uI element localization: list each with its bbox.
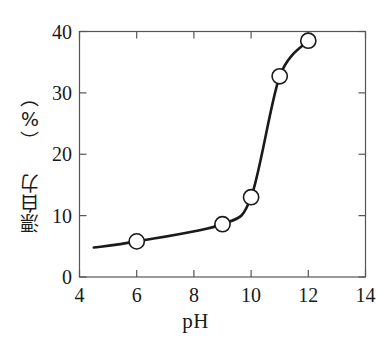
data-point-marker xyxy=(244,190,259,205)
y-tick-label: 20 xyxy=(40,144,72,164)
x-tick-label: 4 xyxy=(75,285,85,305)
x-tick-label: 6 xyxy=(132,285,142,305)
y-tick-label: 10 xyxy=(40,206,72,226)
data-point-marker xyxy=(215,217,230,232)
x-tick-label: 10 xyxy=(241,285,261,305)
axis-ticks xyxy=(80,32,366,278)
y-tick-label: 30 xyxy=(40,83,72,103)
data-point-marker xyxy=(301,33,316,48)
data-point-marker xyxy=(129,234,144,249)
x-tick-label: 12 xyxy=(298,285,318,305)
chart-figure: 漂白力 （%） 010203040 468101214 pH xyxy=(0,0,391,348)
data-point-marker xyxy=(272,69,287,84)
x-axis-title: pH xyxy=(0,309,391,334)
x-tick-label: 8 xyxy=(189,285,199,305)
y-tick-label: 0 xyxy=(40,267,72,287)
x-tick-label: 14 xyxy=(356,285,376,305)
y-tick-label: 40 xyxy=(40,22,72,42)
axes-frame xyxy=(80,32,366,278)
data-markers xyxy=(129,33,316,249)
